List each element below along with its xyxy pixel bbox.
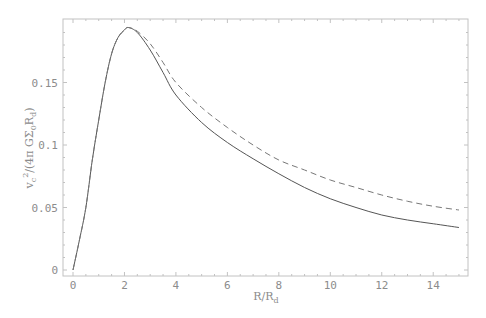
plot-frame: [63, 19, 468, 276]
y-axis-ticks: 00.050.10.15: [32, 33, 469, 278]
x-tick-label: 10: [324, 279, 337, 292]
y-tick-label: 0.1: [38, 139, 58, 152]
x-tick-label: 6: [224, 279, 231, 292]
y-tick-label: 0: [51, 264, 58, 277]
x-axis-label: R/Rd: [253, 290, 278, 305]
solid-curve: [73, 27, 459, 270]
chart: 02468101214 00.050.10.15 R/Rd vc2/(4π GΣ…: [0, 0, 486, 318]
x-tick-label: 14: [427, 279, 441, 292]
x-tick-label: 0: [70, 279, 77, 292]
series-layer: [73, 27, 459, 270]
x-tick-label: 4: [173, 279, 180, 292]
x-tick-label: 2: [121, 279, 128, 292]
x-axis-ticks: 02468101214: [70, 19, 459, 292]
x-tick-label: 8: [276, 279, 283, 292]
y-tick-label: 0.15: [32, 77, 59, 90]
dashed-curve: [73, 27, 459, 270]
y-tick-label: 0.05: [32, 202, 59, 215]
x-tick-label: 12: [375, 279, 388, 292]
y-axis-label: vc2/(4π GΣ0Rd): [21, 108, 38, 190]
